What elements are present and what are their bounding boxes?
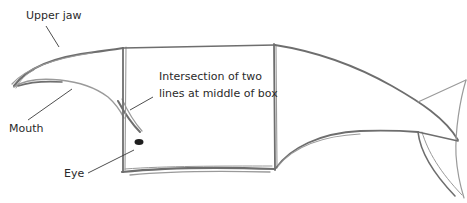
label-eye: Eye xyxy=(64,166,84,181)
leader-eye xyxy=(88,150,134,173)
gill-curve xyxy=(118,99,142,132)
back-stroke xyxy=(275,45,458,140)
leader-upper-jaw xyxy=(46,26,59,47)
leader-intersection xyxy=(130,97,153,110)
leader-mouth xyxy=(28,89,72,120)
construction-box xyxy=(122,44,277,175)
belly-stroke xyxy=(276,131,418,168)
label-intersection-line1: Intersection of two xyxy=(159,69,262,84)
label-mouth: Mouth xyxy=(9,121,43,136)
label-intersection-line2: lines at middle of box xyxy=(159,86,278,101)
label-upper-jaw: Upper jaw xyxy=(26,8,82,23)
upper-jaw-stroke xyxy=(12,48,123,88)
mouth-stroke xyxy=(14,79,124,118)
tail-fin xyxy=(418,80,466,198)
eye-dot xyxy=(135,139,144,145)
